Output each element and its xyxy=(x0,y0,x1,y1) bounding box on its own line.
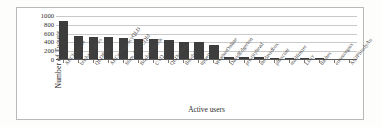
chart-frame: Number of Tweets 10008006004002000 ABCbr… xyxy=(16,7,364,120)
x-label-slot: QLDonline xyxy=(161,63,176,103)
x-label-slot: QLDPolice xyxy=(86,63,101,103)
x-label-slot: Stam_News_Qld xyxy=(116,63,131,103)
x-label-slot: ABCemergencyQLD xyxy=(101,63,116,103)
x-label-slot: WeatherOnline xyxy=(206,63,221,103)
figure-root: Number of Tweets 10008006004002000 ABCbr… xyxy=(0,0,381,127)
y-tick-label: 1000 xyxy=(41,13,54,20)
x-label-slot: tippetts xyxy=(191,63,206,103)
x-label-slot: flashes xyxy=(312,63,327,103)
x-label-slot: phoscunt xyxy=(267,63,282,103)
bar xyxy=(59,21,68,60)
x-label-slot: Brisbanefloods xyxy=(131,63,146,103)
y-tick-label: 600 xyxy=(44,31,54,38)
x-axis-title: Active users xyxy=(56,105,357,114)
x-label-slot: eriomorgms xyxy=(327,63,342,103)
x-label-slot: floods2011 xyxy=(176,63,191,103)
x-label-slot: CYQ_AU xyxy=(146,63,161,103)
y-tick-label: 0 xyxy=(51,57,54,64)
x-label-slot: priorityhead xyxy=(237,63,252,103)
x-label-slot: brisbane_news xyxy=(71,63,86,103)
y-tick-label: 400 xyxy=(44,39,54,46)
x-label-slot: thedavidbox xyxy=(252,63,267,103)
x-label-slot: AUJPStudyAu xyxy=(342,63,357,103)
x-label-slot: ABCbrisbane xyxy=(56,63,71,103)
x-label-slot: mailfinster xyxy=(282,63,297,103)
y-axis-tick-labels: 10008006004002000 xyxy=(33,13,54,60)
x-axis-category-labels: ABCbrisbanebrisbane_newsQLDPoliceABCemer… xyxy=(56,63,357,103)
x-label-slot: DavidEdgerton xyxy=(222,63,237,103)
x-label-slot: Lissy xyxy=(297,63,312,103)
y-tick-label: 200 xyxy=(44,48,54,55)
y-tick-label: 800 xyxy=(44,22,54,29)
